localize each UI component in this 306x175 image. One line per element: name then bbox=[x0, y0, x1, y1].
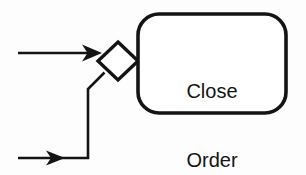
close-order-task[interactable] bbox=[138, 14, 286, 113]
flowchart-graphic bbox=[0, 0, 306, 175]
diagram-canvas: Close Order bbox=[0, 0, 306, 175]
bottom-riser-connector[interactable] bbox=[60, 73, 105, 159]
top-inbound-arrow[interactable] bbox=[18, 45, 102, 62]
bottom-inbound-arrow[interactable] bbox=[18, 151, 65, 166]
